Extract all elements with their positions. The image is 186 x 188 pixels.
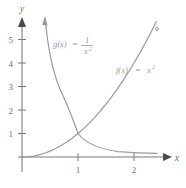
f-label-equals: = <box>135 65 141 75</box>
curve-f-x-squared <box>22 22 156 157</box>
g-label-lhs: g(x) <box>53 39 67 49</box>
g-label-denominator-base: x <box>83 46 88 56</box>
f-function-label: f(x) = x 2 <box>116 64 155 75</box>
f-label-lhs: f(x) <box>116 65 128 75</box>
y-tick-label-2: 2 <box>9 106 14 116</box>
y-tick-label-5: 5 <box>9 35 14 45</box>
y-tick-label-3: 3 <box>9 82 14 92</box>
plot-svg: 1 2 3 4 5 1 2 y x g(x) = 1 x 2 <box>0 0 186 188</box>
f-label-rhs-base: x <box>146 65 151 75</box>
y-axis-label: y <box>19 3 25 14</box>
y-axis-arrowhead <box>18 17 26 27</box>
g-function-label: g(x) = 1 x 2 <box>53 35 93 56</box>
x-tick-label-1: 1 <box>76 165 81 175</box>
x-tick-label-2: 2 <box>132 165 137 175</box>
curve-g-helper <box>45 17 157 153</box>
g-label-denominator-exponent: 2 <box>89 46 92 52</box>
function-graph-figure: 1 2 3 4 5 1 2 y x g(x) = 1 x 2 <box>0 0 186 188</box>
g-label-numerator: 1 <box>85 35 89 45</box>
g-label-equals: = <box>72 39 78 49</box>
x-axis-arrowhead <box>163 153 172 161</box>
x-axis-label: x <box>174 152 180 163</box>
y-tick-label-1: 1 <box>9 129 14 139</box>
curve-g-arrowhead <box>42 16 47 26</box>
y-tick-label-4: 4 <box>9 59 14 69</box>
f-label-rhs-exponent: 2 <box>152 64 155 70</box>
curve-f-endpoint <box>156 28 159 31</box>
